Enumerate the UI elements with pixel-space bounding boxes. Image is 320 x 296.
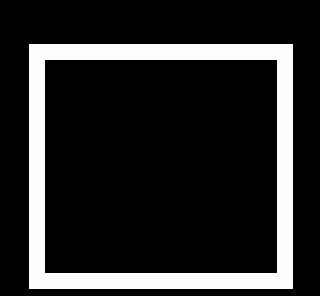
square-interior [45,60,277,273]
canvas [0,0,320,296]
square-outline [29,44,293,289]
